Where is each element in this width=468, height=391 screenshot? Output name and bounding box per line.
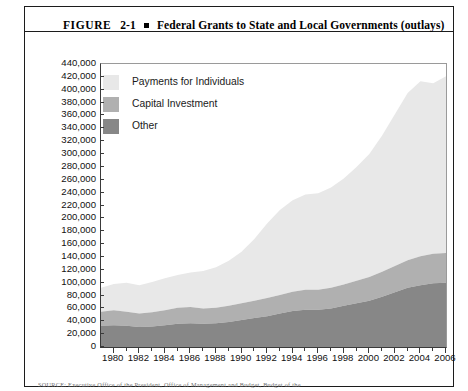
y-axis-tick-label: 160,000 [32, 238, 96, 248]
x-axis-tick-mark [189, 348, 190, 353]
legend-swatch-capital [103, 97, 119, 112]
figure-title-text: Federal Grants to State and Local Govern… [157, 19, 445, 31]
x-axis-tick-mark [113, 348, 114, 353]
y-axis-tick-label: 40,000 [32, 315, 96, 325]
y-axis-tick-label: 320,000 [32, 135, 96, 145]
x-axis-tick-mark [330, 348, 331, 351]
figure-title: FIGURE 2-1 Federal Grants to State and L… [63, 19, 444, 31]
x-axis-tick-label: 2006 [430, 352, 460, 363]
y-axis-tick-mark [100, 102, 104, 103]
y-axis-tick-mark [100, 295, 104, 296]
y-axis-tick-mark [100, 256, 104, 257]
legend-label-payments: Payments for Individuals [132, 76, 244, 87]
x-axis-tick-mark [368, 348, 369, 353]
y-axis-tick-mark [100, 114, 104, 115]
x-axis-tick-mark [292, 348, 293, 353]
y-axis-tick-label: 340,000 [32, 122, 96, 132]
y-axis-tick-mark [100, 179, 104, 180]
x-axis-tick-mark [241, 348, 242, 353]
x-axis-tick-mark [151, 348, 152, 351]
x-axis-tick-mark [432, 348, 433, 351]
legend-label-capital: Capital Investment [132, 98, 217, 109]
y-axis-tick-label: 220,000 [32, 200, 96, 210]
y-axis-tick-label: 60,000 [32, 302, 96, 312]
y-axis-tick-label: 300,000 [32, 148, 96, 158]
y-axis-tick-label: 400,000 [32, 84, 96, 94]
x-axis-tick-mark [343, 348, 344, 353]
y-axis-tick-mark [100, 346, 104, 347]
figure-label: FIGURE [63, 19, 111, 31]
legend-swatch-other [103, 119, 119, 134]
source-note: SOURCE: Executive Office of the Presiden… [38, 380, 448, 389]
x-axis-tick-mark [445, 348, 446, 353]
y-axis-tick-label: 240,000 [32, 187, 96, 197]
y-axis-tick-mark [100, 217, 104, 218]
y-axis-tick-label: 440,000 [32, 58, 96, 68]
y-axis-tick-mark [100, 89, 104, 90]
y-axis-tick-label: 280,000 [32, 161, 96, 171]
x-axis-tick-mark [253, 348, 254, 351]
y-axis-tick-mark [100, 192, 104, 193]
y-axis-tick-mark [100, 166, 104, 167]
figure-title-bar: FIGURE 2-1 Federal Grants to State and L… [25, 7, 453, 32]
y-axis-tick-label: 0 [32, 341, 96, 351]
x-axis-tick-mark [279, 348, 280, 351]
x-axis-tick-mark [356, 348, 357, 351]
y-axis-tick-mark [100, 269, 104, 270]
y-axis-tick-label: 20,000 [32, 328, 96, 338]
x-axis-tick-mark [126, 348, 127, 351]
x-axis-tick-mark [419, 348, 420, 353]
x-axis-tick-mark [164, 348, 165, 353]
x-axis-tick-mark [407, 348, 408, 351]
y-axis-tick-mark [100, 230, 104, 231]
y-axis-tick-mark [100, 140, 104, 141]
y-axis-tick-label: 200,000 [32, 212, 96, 222]
x-axis-tick-mark [215, 348, 216, 353]
y-axis-tick-label: 420,000 [32, 71, 96, 81]
x-axis-tick-mark [304, 348, 305, 351]
y-axis-tick-label: 180,000 [32, 225, 96, 235]
figure-container: FIGURE 2-1 Federal Grants to State and L… [0, 0, 468, 391]
y-axis-tick-mark [100, 320, 104, 321]
x-axis-tick-mark [266, 348, 267, 353]
x-axis-tick-mark [138, 348, 139, 353]
x-axis-tick-mark [177, 348, 178, 351]
x-axis-tick-mark [381, 348, 382, 351]
y-axis-tick-mark [100, 282, 104, 283]
y-axis-tick-mark [100, 333, 104, 334]
x-axis-tick-mark [317, 348, 318, 353]
y-axis-tick-label: 260,000 [32, 174, 96, 184]
legend-label-other: Other [132, 120, 158, 131]
y-axis-tick-mark [100, 307, 104, 308]
y-axis-tick-mark [100, 243, 104, 244]
y-axis-tick-mark [100, 205, 104, 206]
y-axis-labels: 440,000420,000400,000380,000360,000340,0… [30, 58, 96, 354]
x-axis-tick-mark [394, 348, 395, 353]
x-axis-tick-mark [228, 348, 229, 351]
y-axis-tick-label: 100,000 [32, 277, 96, 287]
y-axis-tick-label: 360,000 [32, 109, 96, 119]
y-axis-tick-label: 120,000 [32, 264, 96, 274]
x-axis-tick-mark [202, 348, 203, 351]
y-axis-tick-label: 140,000 [32, 251, 96, 261]
bullet-square-icon [144, 23, 149, 28]
y-axis-tick-mark [100, 76, 104, 77]
y-axis-tick-label: 80,000 [32, 290, 96, 300]
y-axis-tick-mark [100, 127, 104, 128]
legend-swatch-payments [103, 75, 119, 90]
figure-number: 2-1 [120, 19, 136, 31]
y-axis-tick-mark [100, 153, 104, 154]
y-axis-tick-label: 380,000 [32, 97, 96, 107]
x-axis-labels: 1980198219841986198819901992199419961998… [96, 352, 456, 368]
